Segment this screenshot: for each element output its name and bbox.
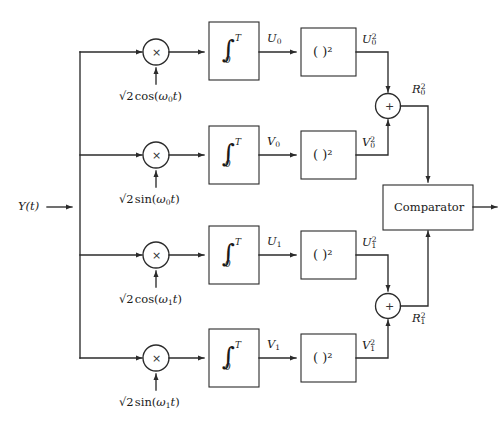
integrator-output-label-3: V1 <box>267 339 280 352</box>
sq-out-base-2: U <box>362 235 372 249</box>
integral-lower-3: 0 <box>225 363 231 372</box>
adder-output-label-1: R21 <box>412 312 425 326</box>
carrier-close-3: ) <box>175 395 180 409</box>
carrier-omega-1: ω <box>156 192 165 206</box>
comparator-label: Comparator <box>394 202 464 214</box>
integral-lower-0: 0 <box>225 56 231 65</box>
sq-out-base-0: U <box>362 32 372 46</box>
carrier-close-0: ) <box>177 89 182 103</box>
squarer-label-0: ( )² <box>313 45 333 58</box>
multiplier-glyph-0: × <box>152 47 161 58</box>
integrator-output-label-1: V0 <box>267 136 280 149</box>
carrier-close-2: ) <box>177 292 182 306</box>
multiplier-glyph-3: × <box>152 353 161 364</box>
carrier-omega-2: ω <box>159 292 168 306</box>
sq-out-sub-0: 0 <box>372 38 377 47</box>
carrier-radicand-1: 2 <box>126 192 133 206</box>
integral-upper-2: T <box>235 238 241 247</box>
integrator-glyph-3: ∫T0 <box>222 344 235 369</box>
adder-out-base-1: R <box>412 311 421 325</box>
wire-sq0-to-adder0 <box>356 52 388 92</box>
input-label: Y(t) <box>18 201 39 213</box>
integral-upper-0: T <box>235 34 241 43</box>
integ-out-sub-3: 1 <box>275 343 280 352</box>
carrier-func-3: sin <box>135 395 152 409</box>
figure-canvas: Y(t) × × × × + + √2 cos(ω0t) √2 sin(ω0t)… <box>0 0 500 433</box>
squarer-output-label-1: V20 <box>362 136 375 150</box>
integral-lower-1: 0 <box>225 160 231 169</box>
carrier-close-1: ) <box>175 192 180 206</box>
integ-out-sub-2: 1 <box>277 240 282 249</box>
integral-upper-1: T <box>235 138 241 147</box>
carrier-omega-0: ω <box>159 89 168 103</box>
wire-adder0-to-comparator <box>401 106 429 182</box>
wire-adder1-to-comparator <box>401 231 429 306</box>
integrator-glyph-2: ∫T0 <box>222 241 235 266</box>
integrator-glyph-1: ∫T0 <box>222 141 235 166</box>
squarer-output-label-0: U20 <box>362 33 376 47</box>
adder-output-label-0: R20 <box>412 83 425 97</box>
carrier-func-1: sin <box>135 192 152 206</box>
adder-glyph-1: + <box>385 301 394 312</box>
carrier-label-3: √2 sin(ω1t) <box>119 397 180 410</box>
adder-out-base-0: R <box>412 82 421 96</box>
adder-glyph-0: + <box>385 101 394 112</box>
squarer-output-label-2: U21 <box>362 236 376 250</box>
integ-out-base-2: U <box>267 234 277 248</box>
diagram-wiring <box>0 0 500 433</box>
squarer-label-1: ( )² <box>313 148 333 161</box>
carrier-label-0: √2 cos(ω0t) <box>119 91 182 104</box>
integrator-glyph-0: ∫T0 <box>222 37 235 62</box>
squarer-label-2: ( )² <box>313 248 333 261</box>
sq-out-sub-3: 1 <box>370 344 375 353</box>
integrator-output-label-2: U1 <box>267 236 282 249</box>
carrier-radicand-0: 2 <box>126 89 133 103</box>
adder-out-sub-0: 0 <box>421 88 426 97</box>
carrier-label-1: √2 sin(ω0t) <box>119 194 180 207</box>
carrier-radicand-2: 2 <box>126 292 133 306</box>
integral-upper-3: T <box>235 341 241 350</box>
adder-out-sub-1: 1 <box>421 317 426 326</box>
integrator-output-label-0: U0 <box>267 33 282 46</box>
carrier-func-2: cos <box>135 292 154 306</box>
wire-sq2-to-adder1 <box>356 255 388 291</box>
integ-out-sub-0: 0 <box>277 37 282 46</box>
carrier-func-0: cos <box>135 89 154 103</box>
input-label-arg: (t) <box>26 199 40 213</box>
input-label-base: Y <box>18 199 26 213</box>
integral-lower-2: 0 <box>225 260 231 269</box>
integ-out-base-0: U <box>267 31 277 45</box>
sq-out-sub-1: 0 <box>370 141 375 150</box>
multiplier-glyph-2: × <box>152 250 161 261</box>
carrier-radicand-3: 2 <box>126 395 133 409</box>
squarer-label-3: ( )² <box>313 351 333 364</box>
carrier-label-2: √2 cos(ω1t) <box>119 294 182 307</box>
squarer-output-label-3: V21 <box>362 339 375 353</box>
sq-out-sub-2: 1 <box>372 241 377 250</box>
integ-out-sub-1: 0 <box>275 140 280 149</box>
carrier-omega-3: ω <box>156 395 165 409</box>
multiplier-glyph-1: × <box>152 150 161 161</box>
